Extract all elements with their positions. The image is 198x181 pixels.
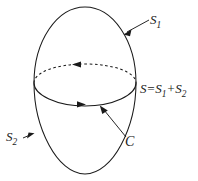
sum-plus: + xyxy=(166,81,175,96)
equator-front-arc-solid xyxy=(34,83,136,106)
equator-back-arc-dashed xyxy=(34,64,136,83)
leader-arrow-s2 xyxy=(27,132,35,138)
label-s2-subscript: 2 xyxy=(13,137,18,147)
leader-line-c xyxy=(104,110,126,137)
back-arc-direction-arrow xyxy=(72,62,81,68)
leader-line-s1 xyxy=(127,20,149,32)
label-curve-c: C xyxy=(125,135,134,149)
figure-diagram: S1 S=S1+S2 S2 C xyxy=(0,0,198,181)
sum-equals: = xyxy=(147,81,156,96)
label-s1: S1 xyxy=(150,13,161,30)
label-s1-subscript: 1 xyxy=(157,20,162,30)
label-s2: S2 xyxy=(6,130,17,147)
outer-surface-outline xyxy=(34,7,136,174)
sum-term2-subscript: 2 xyxy=(182,89,187,99)
label-surface-sum: S=S1+S2 xyxy=(140,82,186,99)
